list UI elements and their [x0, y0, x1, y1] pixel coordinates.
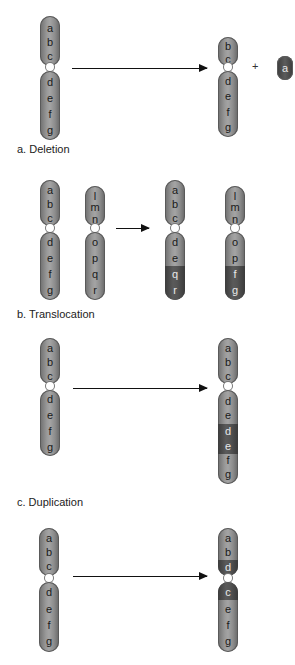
gene-label: e [218, 409, 238, 421]
centromere [224, 382, 232, 390]
gene-label: f [218, 454, 238, 466]
gene-label: g [40, 284, 60, 296]
q-arm: d e f g [40, 71, 60, 140]
gene-label: d [218, 395, 238, 407]
p-arm: a b c [40, 338, 60, 384]
fragment-body: a [277, 56, 293, 80]
gene-label: f [40, 268, 60, 280]
plus-sign: + [252, 60, 258, 72]
gene-label: a [39, 532, 59, 544]
gene-label: g [218, 635, 238, 647]
gene-label: o [225, 236, 245, 248]
gene-label: q [165, 268, 185, 280]
gene-label: a [40, 342, 60, 354]
gene-label: b [218, 40, 238, 52]
q-arm: d e f g [40, 232, 60, 300]
arrow-icon [73, 388, 207, 389]
gene-label: d [40, 76, 60, 88]
p-arm: a b c [165, 180, 185, 226]
p-arm: a b d [218, 528, 238, 576]
centromere [46, 224, 54, 232]
gene-label: e [40, 92, 60, 104]
gene-label: c [40, 370, 60, 382]
chromosome-1-original: a b c d e f g [40, 180, 60, 300]
arrow-icon [116, 228, 149, 229]
gene-label: d [218, 425, 238, 437]
chromosome-inverted: a b d c e f g [218, 528, 238, 652]
centromere [224, 574, 232, 582]
gene-label: c [165, 212, 185, 224]
gene-label: a [40, 22, 60, 34]
gene-label: a [165, 184, 185, 196]
gene-label: c [40, 50, 60, 62]
chromosome-2-translocated: l m n o p f g [225, 186, 245, 300]
centromere [46, 382, 54, 390]
gene-label: p [225, 252, 245, 264]
q-arm: o p q r [85, 232, 105, 300]
gene-label: m [85, 201, 105, 213]
p-arm: l m n [85, 186, 105, 226]
gene-label: r [85, 284, 105, 296]
gene-label: f [40, 425, 60, 437]
q-arm: d e d e f g [218, 390, 238, 484]
gene-label: a [218, 342, 238, 354]
gene-label: g [40, 124, 60, 136]
panel-label-deletion: a. Deletion [17, 143, 70, 155]
gene-label: f [40, 108, 60, 120]
p-arm: b c [218, 37, 238, 66]
gene-label: b [165, 198, 185, 210]
q-arm: o p f g [225, 232, 245, 300]
panel-label-duplication: c. Duplication [17, 496, 83, 508]
gene-label: q [85, 268, 105, 280]
gene-label: b [218, 546, 238, 558]
gene-label: a [40, 184, 60, 196]
arrow-icon [72, 68, 207, 69]
gene-label: b [39, 546, 59, 558]
gene-label: d [218, 561, 238, 573]
gene-label: e [218, 90, 238, 102]
gene-label: g [218, 468, 238, 480]
centromere [224, 63, 232, 71]
gene-label: d [218, 75, 238, 87]
gene-label: d [165, 236, 185, 248]
p-arm: a b c [40, 16, 60, 66]
gene-label: e [218, 603, 238, 615]
gene-label: f [218, 106, 238, 118]
gene-label: g [225, 284, 245, 296]
gene-label: b [40, 36, 60, 48]
gene-label: e [218, 440, 238, 452]
gene-label: r [165, 284, 185, 296]
gene-label: c [40, 212, 60, 224]
gene-label: c [39, 560, 59, 572]
chromosome-2-original: l m n o p q r [85, 186, 105, 300]
centromere [171, 224, 179, 232]
centromere [231, 224, 239, 232]
gene-label: d [40, 393, 60, 405]
gene-label: g [218, 121, 238, 133]
gene-label: f [218, 619, 238, 631]
q-arm: c e f g [218, 582, 238, 652]
gene-label: f [225, 268, 245, 280]
gene-label: g [39, 635, 59, 647]
panel-label-translocation: b. Translocation [17, 308, 95, 320]
gene-label: a [218, 532, 238, 544]
chromosome-deleted: b c d e f g [218, 37, 238, 136]
p-arm: a b c [218, 338, 238, 384]
q-arm: d e f g [40, 390, 60, 456]
gene-label: e [40, 409, 60, 421]
gene-label: b [40, 356, 60, 368]
gene-label: o [85, 236, 105, 248]
gene-label: g [40, 441, 60, 453]
gene-label: b [218, 356, 238, 368]
gene-label: e [40, 252, 60, 264]
p-arm: a b c [39, 528, 59, 576]
gene-label: c [218, 370, 238, 382]
q-arm: d e f g [39, 582, 59, 652]
gene-label: p [85, 252, 105, 264]
gene-label: a [277, 62, 293, 74]
chromosome-duplicated: a b c d e d e f g [218, 338, 238, 484]
gene-label: f [39, 619, 59, 631]
chromosome-original: a b c d e f g [40, 338, 60, 456]
q-arm: d e q r [165, 232, 185, 300]
centromere [46, 63, 54, 71]
